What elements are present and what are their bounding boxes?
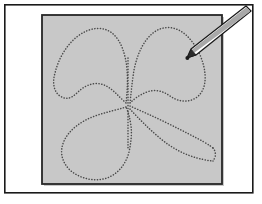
drawing-area	[42, 15, 222, 184]
stylus-contact-point	[185, 56, 189, 60]
illustration-root: Dotted four-leaf clover traced with a st…	[0, 0, 262, 204]
clover-tracing-illustration: Dotted four-leaf clover traced with a st…	[0, 0, 262, 204]
